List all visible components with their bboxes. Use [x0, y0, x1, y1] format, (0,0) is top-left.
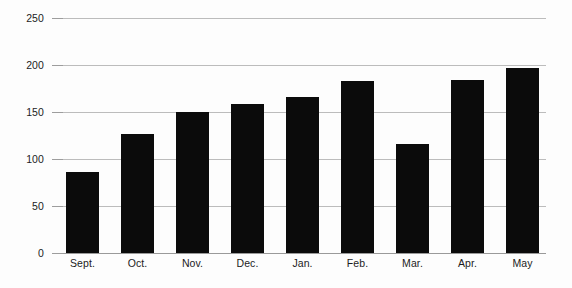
- ytick-mark-50: [52, 206, 63, 207]
- ytick-label-250: 250: [4, 13, 44, 24]
- ytick-mark-200: [52, 65, 63, 66]
- ytick-mark-100: [52, 159, 63, 160]
- ytick-label-50: 50: [4, 201, 44, 212]
- bar-may: [506, 68, 539, 253]
- bar-mar: [396, 144, 429, 253]
- ytick-mark-250: [52, 18, 63, 19]
- ytick-label-150: 150: [4, 107, 44, 118]
- xtick-label-jan: Jan.: [277, 258, 328, 269]
- axis-baseline: [62, 253, 546, 254]
- bar-oct: [121, 134, 154, 253]
- xtick-label-nov: Nov.: [167, 258, 218, 269]
- bar-nov: [176, 112, 209, 253]
- ytick-label-100: 100: [4, 154, 44, 165]
- ytick-label-0: 0: [4, 248, 44, 259]
- xtick-label-sept: Sept.: [57, 258, 108, 269]
- bar-jan: [286, 97, 319, 253]
- ytick-mark-150: [52, 112, 63, 113]
- gridline-250: [62, 18, 546, 19]
- xtick-label-feb: Feb.: [332, 258, 383, 269]
- bar-apr: [451, 80, 484, 253]
- xtick-label-mar: Mar.: [387, 258, 438, 269]
- xtick-label-apr: Apr.: [442, 258, 493, 269]
- bar-chart: 250 200 150 100 50 0 Sept. Oct. Nov. Dec…: [0, 0, 572, 288]
- bar-feb: [341, 81, 374, 253]
- gridline-200: [62, 65, 546, 66]
- xtick-label-dec: Dec.: [222, 258, 273, 269]
- ytick-label-200: 200: [4, 60, 44, 71]
- ytick-mark-0: [52, 253, 63, 254]
- xtick-label-may: May: [497, 258, 548, 269]
- bar-sept: [66, 172, 99, 253]
- bar-dec: [231, 104, 264, 253]
- xtick-label-oct: Oct.: [112, 258, 163, 269]
